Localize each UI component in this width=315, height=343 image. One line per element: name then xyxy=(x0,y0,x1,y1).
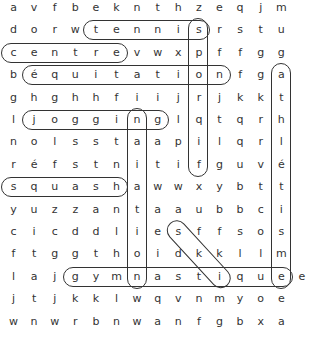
grid-letter[interactable]: u xyxy=(230,154,251,176)
grid-letter[interactable]: v xyxy=(127,42,148,64)
grid-letter[interactable]: b xyxy=(230,176,251,198)
grid-letter[interactable]: c xyxy=(250,199,271,221)
grid-letter[interactable]: é xyxy=(24,154,45,176)
grid-letter[interactable]: l xyxy=(44,131,65,153)
grid-letter[interactable]: b xyxy=(65,0,86,19)
grid-letter[interactable]: o xyxy=(24,19,45,41)
grid-letter[interactable]: v xyxy=(168,288,189,310)
grid-letter[interactable]: l xyxy=(106,288,127,310)
grid-letter[interactable]: n xyxy=(168,311,189,333)
grid-letter[interactable]: n xyxy=(106,311,127,333)
grid-letter[interactable]: e xyxy=(271,288,292,310)
grid-letter[interactable]: k xyxy=(230,87,251,109)
grid-letter[interactable]: h xyxy=(65,87,86,109)
grid-letter[interactable]: a xyxy=(271,311,292,333)
grid-letter[interactable]: o xyxy=(24,131,45,153)
grid-letter[interactable]: t xyxy=(147,0,168,19)
grid-letter[interactable]: h xyxy=(24,87,45,109)
grid-letter[interactable]: h xyxy=(85,87,106,109)
grid-letter[interactable]: m xyxy=(209,288,230,310)
grid-letter[interactable]: a xyxy=(3,0,24,19)
grid-letter[interactable]: n xyxy=(3,131,24,153)
grid-letter[interactable]: i xyxy=(147,243,168,265)
grid-letter[interactable]: m xyxy=(271,0,292,19)
grid-letter[interactable]: g xyxy=(209,311,230,333)
grid-letter[interactable]: a xyxy=(147,311,168,333)
grid-letter[interactable]: n xyxy=(24,311,45,333)
grid-letter[interactable]: g xyxy=(271,42,292,64)
grid-letter[interactable]: k xyxy=(250,87,271,109)
grid-letter[interactable]: v xyxy=(24,0,45,19)
grid-letter[interactable]: t xyxy=(85,154,106,176)
grid-letter[interactable]: y xyxy=(209,176,230,198)
grid-letter[interactable]: r xyxy=(209,19,230,41)
grid-letter[interactable]: e xyxy=(85,0,106,19)
grid-letter[interactable]: s xyxy=(230,19,251,41)
grid-letter[interactable]: g xyxy=(3,87,24,109)
grid-letter[interactable]: a xyxy=(24,266,45,288)
grid-letter[interactable]: l xyxy=(230,243,251,265)
grid-letter[interactable]: l xyxy=(209,131,230,153)
grid-letter[interactable]: t xyxy=(106,131,127,153)
grid-letter[interactable]: b xyxy=(3,64,24,86)
grid-letter[interactable]: t xyxy=(85,243,106,265)
grid-letter[interactable]: o xyxy=(250,288,271,310)
grid-letter[interactable]: f xyxy=(44,154,65,176)
grid-letter[interactable]: w xyxy=(168,176,189,198)
grid-letter[interactable]: l xyxy=(3,266,24,288)
grid-letter[interactable]: x xyxy=(168,42,189,64)
grid-letter[interactable]: i xyxy=(24,221,45,243)
grid-letter[interactable]: d xyxy=(3,19,24,41)
grid-letter[interactable]: q xyxy=(230,131,251,153)
grid-letter[interactable]: n xyxy=(106,199,127,221)
grid-letter[interactable]: q xyxy=(230,109,251,131)
grid-letter[interactable]: k xyxy=(85,288,106,310)
grid-letter[interactable]: j xyxy=(168,87,189,109)
grid-letter[interactable]: b xyxy=(230,199,251,221)
grid-letter[interactable]: l xyxy=(250,243,271,265)
grid-letter[interactable]: d xyxy=(65,221,86,243)
grid-letter[interactable]: g xyxy=(44,243,65,265)
grid-letter[interactable]: g xyxy=(250,42,271,64)
grid-letter[interactable]: f xyxy=(209,42,230,64)
grid-letter[interactable]: w xyxy=(147,176,168,198)
grid-letter[interactable]: a xyxy=(147,199,168,221)
grid-letter[interactable]: b xyxy=(85,311,106,333)
grid-letter[interactable]: g xyxy=(44,87,65,109)
grid-letter[interactable]: r xyxy=(65,311,86,333)
grid-letter[interactable]: r xyxy=(250,109,271,131)
grid-letter[interactable]: z xyxy=(44,199,65,221)
grid-letter[interactable]: j xyxy=(250,0,271,19)
grid-letter[interactable]: x xyxy=(250,311,271,333)
grid-letter[interactable]: a xyxy=(85,199,106,221)
grid-letter[interactable]: y xyxy=(230,288,251,310)
grid-letter[interactable]: i xyxy=(127,87,148,109)
grid-letter[interactable]: b xyxy=(230,311,251,333)
grid-letter[interactable]: u xyxy=(24,199,45,221)
grid-letter[interactable]: r xyxy=(44,19,65,41)
grid-letter[interactable]: f xyxy=(230,42,251,64)
grid-letter[interactable]: s xyxy=(65,154,86,176)
grid-letter[interactable]: n xyxy=(127,0,148,19)
grid-letter[interactable]: t xyxy=(209,109,230,131)
grid-letter[interactable]: t xyxy=(250,176,271,198)
grid-letter[interactable]: h xyxy=(106,243,127,265)
grid-letter[interactable]: l xyxy=(106,221,127,243)
grid-letter[interactable]: y xyxy=(3,199,24,221)
grid-letter[interactable]: d xyxy=(85,221,106,243)
grid-letter[interactable]: k xyxy=(65,288,86,310)
grid-letter[interactable]: o xyxy=(250,221,271,243)
grid-letter[interactable]: t xyxy=(24,288,45,310)
grid-letter[interactable]: j xyxy=(3,288,24,310)
grid-letter[interactable]: k xyxy=(106,0,127,19)
grid-letter[interactable]: q xyxy=(147,288,168,310)
grid-letter[interactable]: b xyxy=(209,199,230,221)
grid-letter[interactable]: q xyxy=(230,0,251,19)
grid-letter[interactable]: e xyxy=(291,266,312,288)
grid-letter[interactable]: l xyxy=(3,109,24,131)
grid-letter[interactable]: w xyxy=(127,311,148,333)
grid-letter[interactable]: v xyxy=(250,154,271,176)
grid-letter[interactable]: c xyxy=(44,221,65,243)
grid-letter[interactable]: i xyxy=(147,87,168,109)
grid-letter[interactable]: j xyxy=(44,288,65,310)
